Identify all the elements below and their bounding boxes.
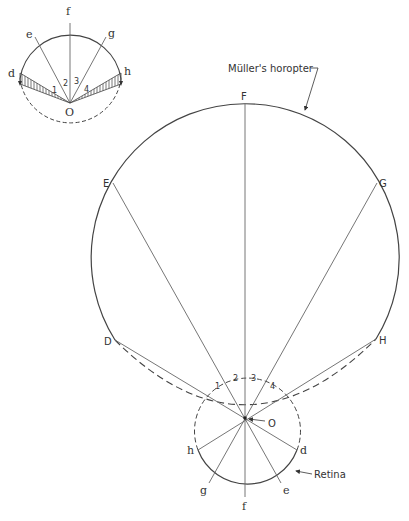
inset-number-4: 4 — [84, 85, 89, 94]
inset-label-e: e — [26, 28, 33, 41]
line-E-e — [113, 183, 281, 483]
line-H-h — [198, 339, 376, 450]
horopter-label: Müller's horopter — [228, 63, 314, 74]
inset-diagram: f e g d h O 1 2 3 4 — [8, 5, 131, 123]
number-4: 4 — [270, 382, 275, 391]
label-H: H — [379, 335, 387, 346]
horopter-dashed-arc — [115, 339, 376, 405]
number-2: 2 — [233, 374, 238, 383]
inset-label-d: d — [8, 67, 15, 80]
inset-number-2: 2 — [63, 79, 68, 88]
retina-label-g: g — [200, 484, 207, 497]
inset-label-h: h — [124, 65, 131, 78]
number-1: 1 — [215, 382, 220, 391]
label-F: F — [241, 91, 247, 102]
label-D: D — [104, 336, 112, 347]
label-O: O — [268, 418, 276, 429]
inset-label-g: g — [108, 27, 115, 40]
label-E: E — [103, 178, 109, 189]
retina-label-f: f — [242, 500, 247, 513]
nodal-point — [243, 416, 247, 420]
inset-number-1: 1 — [52, 86, 57, 95]
inset-label-f: f — [66, 5, 71, 18]
retina-label-d: d — [300, 444, 307, 457]
number-3: 3 — [251, 374, 256, 383]
retina-label: Retina — [314, 469, 346, 480]
inset-label-o: O — [65, 106, 74, 119]
label-G: G — [379, 178, 387, 189]
retina-label-h: h — [187, 444, 194, 457]
line-G-g — [209, 183, 377, 483]
main-diagram: Müller's horopter Retina F E G D H O 1 2… — [91, 63, 399, 513]
retina-circle-solid — [198, 450, 297, 484]
inset-circle-solid — [20, 35, 121, 79]
inset-number-3: 3 — [74, 77, 79, 86]
horopter-diagram: f e g d h O 1 2 3 4 Müller's horopter Re… — [0, 0, 409, 521]
line-D-d — [115, 340, 297, 450]
retina-label-e: e — [283, 484, 290, 497]
